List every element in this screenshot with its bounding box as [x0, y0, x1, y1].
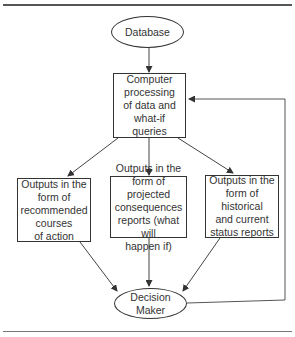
historical-output-label: Outputs in the form of historical and cu…: [206, 174, 278, 239]
processing-node: Computer processing of data and what-if …: [113, 73, 186, 138]
decision-maker-node: Decision Maker: [114, 288, 187, 319]
arrow-historical-to-decision: [183, 238, 220, 291]
projected-output-label: Outputs in the form of projected consequ…: [111, 162, 186, 253]
database-node: Database: [111, 16, 184, 48]
projected-output-node: Outputs in the form of projected consequ…: [110, 176, 187, 238]
historical-output-node: Outputs in the form of historical and cu…: [205, 175, 279, 238]
decision-maker-label: Decision Maker: [115, 291, 186, 317]
arrow-processing-to-historical: [178, 138, 233, 173]
recommended-output-label: Outputs in the form of recommended cours…: [20, 178, 87, 243]
recommended-output-node: Outputs in the form of recommended cours…: [17, 178, 91, 242]
bottom-rule: [3, 331, 292, 332]
database-label: Database: [125, 26, 170, 39]
processing-label: Computer processing of data and what-if …: [123, 73, 176, 138]
